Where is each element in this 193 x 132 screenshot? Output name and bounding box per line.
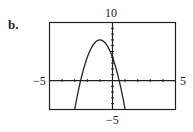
parabola-curve <box>75 40 125 110</box>
graph-window <box>0 0 193 132</box>
